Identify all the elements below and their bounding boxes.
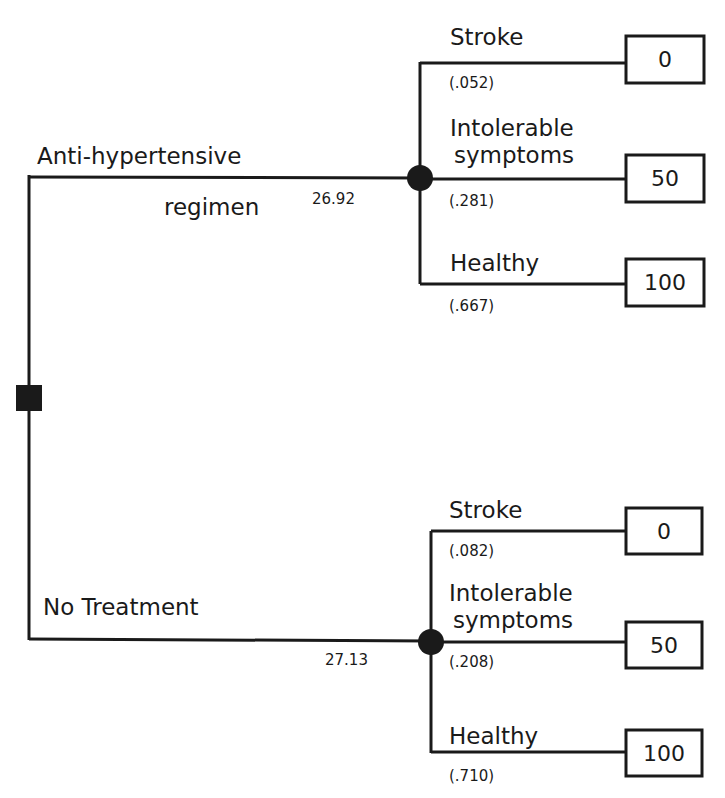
utility-value: 50 (651, 166, 679, 191)
outcome-label-line2: symptoms (453, 607, 573, 633)
branch-line (29, 639, 431, 641)
utility-value: 0 (658, 47, 672, 72)
expected-value: 26.92 (312, 190, 355, 208)
branch-anti-hypertensive: Anti-hypertensive regimen 26.92 Stroke (… (29, 24, 704, 315)
branch-label: No Treatment (43, 594, 199, 620)
outcome-probability: (.281) (449, 192, 494, 210)
outcome-healthy: Healthy (.710) 100 (431, 723, 702, 785)
outcome-healthy: Healthy (.667) 100 (420, 250, 704, 315)
branch-label: Anti-hypertensive (37, 143, 241, 169)
branch-label-line2: regimen (164, 194, 259, 220)
utility-value: 0 (657, 519, 671, 544)
outcome-probability: (.208) (449, 653, 494, 671)
outcome-label: Intolerable (449, 580, 573, 606)
utility-value: 100 (643, 741, 685, 766)
outcome-intolerable-symptoms: Intolerable symptoms (.281) 50 (420, 115, 704, 210)
branch-line (29, 177, 420, 178)
outcome-label: Stroke (450, 24, 523, 50)
branch-no-treatment: No Treatment 27.13 Stroke (.082) 0 Intol… (29, 497, 702, 785)
outcome-label: Stroke (449, 497, 522, 523)
utility-value: 50 (650, 633, 678, 658)
outcome-stroke: Stroke (.052) 0 (420, 24, 704, 92)
outcome-label: Healthy (450, 250, 539, 276)
outcome-stroke: Stroke (.082) 0 (431, 497, 702, 560)
outcome-label: Healthy (449, 723, 538, 749)
outcome-label-line2: symptoms (454, 142, 574, 168)
outcome-probability: (.052) (449, 74, 494, 92)
outcome-label: Intolerable (450, 115, 574, 141)
outcome-probability: (.082) (449, 542, 494, 560)
decision-node-square (16, 385, 42, 411)
outcome-probability: (.667) (449, 297, 494, 315)
outcome-probability: (.710) (449, 767, 494, 785)
outcome-intolerable-symptoms: Intolerable symptoms (.208) 50 (431, 580, 702, 671)
decision-tree-diagram: Anti-hypertensive regimen 26.92 Stroke (… (0, 0, 725, 798)
expected-value: 27.13 (325, 651, 368, 669)
utility-value: 100 (644, 270, 686, 295)
